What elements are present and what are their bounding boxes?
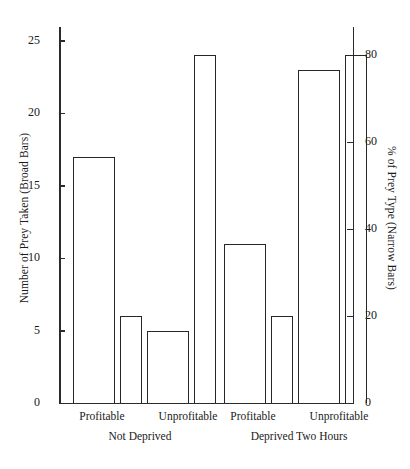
y-ticklabel-left-20: 20 [28, 105, 40, 120]
figure: Number of Prey Taken (Broad Bars) % of P… [0, 0, 410, 469]
y-tick-left-10 [59, 258, 65, 260]
y-tick-left-0 [59, 403, 65, 405]
bar-deprived-unprofitable-narrow [345, 55, 367, 403]
bar-deprived-profitable-narrow [271, 316, 293, 403]
y-ticklabel-left-15: 15 [28, 178, 40, 193]
y-ticklabel-left-5: 5 [34, 323, 40, 338]
y-axis-title-left: Number of Prey Taken (Broad Bars) [18, 98, 30, 338]
y-tick-left-20 [59, 113, 65, 115]
x-group-label-deprived-two-hours: Deprived Two Hours [211, 430, 387, 442]
x-category-label-deprived-profitable: Profitable [210, 410, 296, 422]
y-tick-left-25 [59, 40, 65, 42]
plot-area: 0 5 10 15 20 25 0 20 40 60 80 [59, 27, 354, 404]
bar-not-deprived-unprofitable-broad [147, 331, 189, 404]
y-ticklabel-left-25: 25 [28, 33, 40, 48]
axis-line-left [59, 27, 61, 404]
y-ticklabel-left-10: 10 [28, 250, 40, 265]
bar-not-deprived-profitable-narrow [120, 316, 142, 403]
y-axis-title-right: % of Prey Type (Narrow Bars) [386, 98, 398, 338]
y-tick-left-15 [59, 185, 65, 187]
bar-not-deprived-unprofitable-narrow [194, 55, 216, 403]
caption-bleed [0, 462, 410, 469]
y-ticklabel-left-0: 0 [34, 395, 40, 410]
bar-deprived-unprofitable-broad [298, 70, 340, 404]
bar-deprived-profitable-broad [224, 244, 266, 404]
y-tick-left-5 [59, 330, 65, 332]
x-group-label-not-deprived: Not Deprived [59, 430, 221, 442]
x-category-label-deprived-unprofitable: Unprofitable [291, 410, 387, 422]
bar-not-deprived-profitable-broad [73, 157, 115, 404]
x-category-label-not-deprived-profitable: Profitable [59, 410, 145, 422]
